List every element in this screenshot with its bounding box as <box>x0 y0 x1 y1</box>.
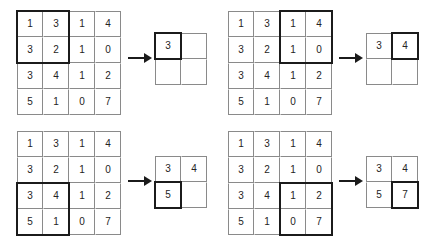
cell-r0-c0: 3 <box>366 33 392 59</box>
cell-r1-c1: 7 <box>392 182 418 208</box>
cell-r3-c3: 7 <box>306 209 332 235</box>
arrow-shaft <box>339 180 356 182</box>
cell-r2-c0: 3 <box>17 63 43 89</box>
arrow-shaft <box>128 57 145 59</box>
cell-r0-c1: 4 <box>181 156 207 182</box>
step-1-input-matrix: 1314321034125107 <box>17 11 121 115</box>
step-2-input-matrix: 1314321034125107 <box>228 11 332 115</box>
cell-r0-c0: 3 <box>155 156 181 182</box>
cell-r1-c1 <box>181 59 207 85</box>
cell-r0-c0: 3 <box>155 33 181 59</box>
cell-r0-c1: 3 <box>43 131 69 157</box>
arrow-head-icon <box>355 53 363 63</box>
cell-r2-c2: 1 <box>280 183 306 209</box>
cell-r1-c1: 2 <box>43 157 69 183</box>
arrow-head-icon <box>144 53 152 63</box>
cell-r3-c1: 1 <box>43 89 69 115</box>
cell-r0-c0: 1 <box>228 11 254 37</box>
cell-r3-c0: 5 <box>228 89 254 115</box>
cell-r0-c1: 3 <box>43 11 69 37</box>
cell-r0-c0: 1 <box>228 131 254 157</box>
step-2-maps-to-arrow <box>339 53 363 63</box>
cell-r3-c2: 0 <box>69 209 95 235</box>
arrow-head-icon <box>355 176 363 186</box>
cell-r0-c2: 1 <box>280 11 306 37</box>
step-3-maps-to-arrow <box>128 176 152 186</box>
step-2-output-matrix: 34 <box>366 33 418 85</box>
cell-r1-c1: 2 <box>43 37 69 63</box>
cell-r0-c3: 4 <box>95 131 121 157</box>
cell-r2-c3: 2 <box>95 183 121 209</box>
cell-r1-c0: 3 <box>228 37 254 63</box>
cell-r3-c1: 1 <box>254 89 280 115</box>
cell-r2-c1: 4 <box>254 63 280 89</box>
step-3-input-matrix: 1314321034125107 <box>17 131 121 235</box>
cell-r0-c1: 4 <box>392 156 418 182</box>
cell-r1-c1: 2 <box>254 37 280 63</box>
cell-r0-c2: 1 <box>280 131 306 157</box>
cell-r2-c0: 3 <box>17 183 43 209</box>
cell-r1-c2: 1 <box>69 37 95 63</box>
cell-r0-c0: 1 <box>17 11 43 37</box>
cell-r0-c0: 3 <box>366 156 392 182</box>
cell-r2-c3: 2 <box>95 63 121 89</box>
cell-r1-c2: 1 <box>69 157 95 183</box>
cell-r1-c3: 0 <box>95 157 121 183</box>
pooling-diagram: 1314321034125107313143210341251073413143… <box>0 0 433 241</box>
cell-r2-c1: 4 <box>43 63 69 89</box>
step-4-maps-to-arrow <box>339 176 363 186</box>
cell-r1-c0: 5 <box>366 182 392 208</box>
cell-r0-c1: 3 <box>254 11 280 37</box>
cell-r0-c2: 1 <box>69 11 95 37</box>
cell-r3-c0: 5 <box>17 209 43 235</box>
arrow-shaft <box>339 57 356 59</box>
step-3-output-matrix: 345 <box>155 156 207 208</box>
cell-r1-c2: 1 <box>280 37 306 63</box>
cell-r0-c0: 1 <box>17 131 43 157</box>
cell-r2-c0: 3 <box>228 63 254 89</box>
step-1-output-matrix: 3 <box>155 33 207 85</box>
cell-r3-c3: 7 <box>95 89 121 115</box>
cell-r2-c1: 4 <box>43 183 69 209</box>
cell-r1-c0: 3 <box>17 37 43 63</box>
cell-r2-c3: 2 <box>306 63 332 89</box>
cell-r0-c2: 1 <box>69 131 95 157</box>
cell-r3-c2: 0 <box>280 89 306 115</box>
cell-r1-c0 <box>366 59 392 85</box>
cell-r1-c1 <box>181 182 207 208</box>
cell-r3-c1: 1 <box>43 209 69 235</box>
cell-r0-c3: 4 <box>306 11 332 37</box>
cell-r2-c0: 3 <box>228 183 254 209</box>
cell-r0-c1: 4 <box>392 33 418 59</box>
cell-r1-c3: 0 <box>95 37 121 63</box>
cell-r1-c0: 3 <box>17 157 43 183</box>
cell-r3-c1: 1 <box>254 209 280 235</box>
cell-r3-c3: 7 <box>306 89 332 115</box>
step-1-maps-to-arrow <box>128 53 152 63</box>
cell-r0-c3: 4 <box>306 131 332 157</box>
cell-r0-c1 <box>181 33 207 59</box>
cell-r0-c3: 4 <box>95 11 121 37</box>
cell-r1-c0: 3 <box>228 157 254 183</box>
cell-r1-c2: 1 <box>280 157 306 183</box>
cell-r2-c1: 4 <box>254 183 280 209</box>
cell-r3-c2: 0 <box>280 209 306 235</box>
cell-r1-c3: 0 <box>306 37 332 63</box>
arrow-shaft <box>128 180 145 182</box>
step-4-output-matrix: 3457 <box>366 156 418 208</box>
cell-r0-c1: 3 <box>254 131 280 157</box>
cell-r2-c2: 1 <box>69 63 95 89</box>
cell-r2-c2: 1 <box>280 63 306 89</box>
cell-r2-c3: 2 <box>306 183 332 209</box>
step-4-input-matrix: 1314321034125107 <box>228 131 332 235</box>
arrow-head-icon <box>144 176 152 186</box>
cell-r1-c0: 5 <box>155 182 181 208</box>
cell-r3-c0: 5 <box>228 209 254 235</box>
cell-r3-c3: 7 <box>95 209 121 235</box>
cell-r2-c2: 1 <box>69 183 95 209</box>
cell-r3-c2: 0 <box>69 89 95 115</box>
cell-r1-c3: 0 <box>306 157 332 183</box>
cell-r1-c1: 2 <box>254 157 280 183</box>
cell-r1-c1 <box>392 59 418 85</box>
cell-r3-c0: 5 <box>17 89 43 115</box>
